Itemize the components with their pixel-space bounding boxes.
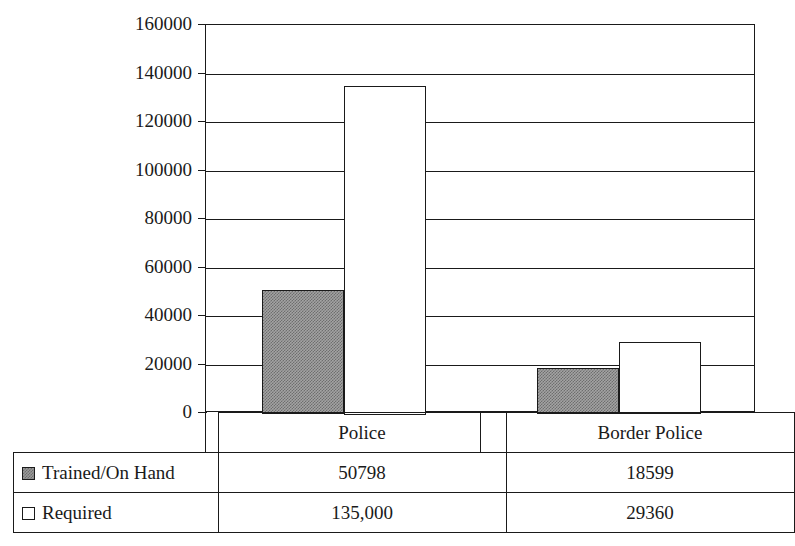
bar-trained-on-hand-police: [262, 290, 344, 415]
value-cell: 50798: [218, 453, 506, 493]
category-label-police: Police: [218, 413, 506, 453]
table-row: Trained/On Hand5079818599: [14, 453, 795, 493]
value-cell: 18599: [506, 453, 794, 493]
value-cell: 29360: [506, 493, 794, 533]
value-cell: 135,000: [218, 493, 506, 533]
legend-swatch-hollow-icon: [22, 507, 35, 520]
y-axis-tick-label: 80000: [145, 208, 193, 227]
y-axis-tick-label: 60000: [145, 257, 193, 276]
gridline: [206, 268, 754, 269]
bar-trained-on-hand-border-police: [537, 368, 619, 415]
category-header-row: PoliceBorder Police: [14, 413, 795, 453]
legend-entry-required: Required: [14, 493, 219, 533]
legend-header-spacer: [14, 413, 219, 453]
y-axis-tick-label: 120000: [135, 111, 192, 130]
category-label-border-police: Border Police: [506, 413, 794, 453]
gridline: [206, 122, 754, 123]
y-axis-tick-label: 20000: [145, 354, 193, 373]
gridline: [206, 171, 754, 172]
legend-label: Required: [42, 502, 112, 523]
bar-required-police: [344, 86, 426, 415]
gridline: [206, 219, 754, 220]
y-axis-tick-label: 40000: [145, 305, 193, 324]
table-row: Required135,00029360: [14, 493, 795, 533]
legend-swatch-filled-icon: [22, 467, 35, 480]
y-axis-tick-label: 140000: [135, 63, 192, 82]
y-axis-line: [205, 24, 206, 453]
legend-label: Trained/On Hand: [42, 462, 175, 483]
y-axis-tick-label: 160000: [135, 14, 192, 33]
plot-area: [205, 24, 755, 412]
y-axis-tick-label: 100000: [135, 160, 192, 179]
gridline: [206, 74, 754, 75]
bar-required-border-police: [619, 342, 701, 415]
category-legend-table: PoliceBorder PoliceTrained/On Hand507981…: [13, 412, 795, 533]
legend-entry-trained-on-hand: Trained/On Hand: [14, 453, 219, 493]
